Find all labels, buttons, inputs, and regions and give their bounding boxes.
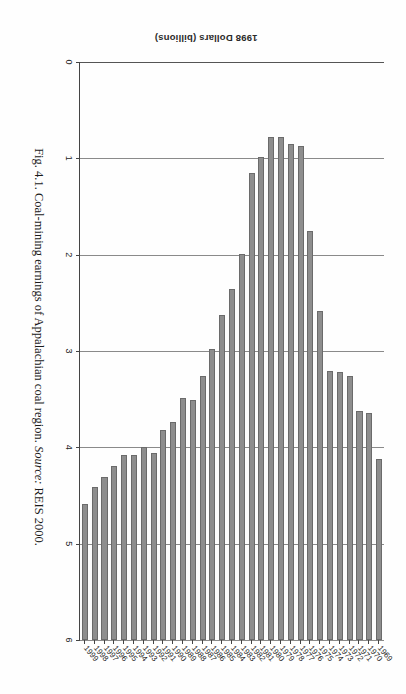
category-tick-1995 [123, 640, 124, 644]
bar-1974 [327, 371, 333, 640]
bar-1979 [278, 137, 284, 640]
bar-1998 [92, 487, 98, 640]
bar-1976 [307, 231, 313, 640]
value-tick-4 [76, 447, 80, 448]
category-tick-1997 [104, 640, 105, 644]
bar-1984 [229, 289, 235, 640]
category-tick-1972 [349, 640, 350, 644]
bar-row [141, 62, 147, 640]
value-tick-1 [76, 158, 80, 159]
bar-row [111, 62, 117, 640]
value-tick-label-6: 6 [64, 628, 74, 652]
value-tick-label-3: 3 [64, 339, 74, 363]
bar-row [366, 62, 372, 640]
category-tick-1983 [241, 640, 242, 644]
category-tick-1991 [162, 640, 163, 644]
bar-row [151, 62, 157, 640]
value-axis-title: 1998 Dollars (billions) [50, 30, 362, 46]
figure-caption: Fig. 4.1. Coal-mining earnings of Appala… [31, 0, 46, 694]
bar-1983 [239, 254, 245, 640]
bar-1973 [337, 372, 343, 640]
bar-row [376, 62, 382, 640]
value-tick-3 [76, 351, 80, 352]
bar-row [337, 62, 343, 640]
bar-row [219, 62, 225, 640]
bar-row [101, 62, 107, 640]
category-tick-1992 [153, 640, 154, 644]
value-tick-label-1: 1 [64, 146, 74, 170]
category-tick-1981 [260, 640, 261, 644]
bar-1981 [258, 157, 264, 640]
category-tick-1971 [358, 640, 359, 644]
category-tick-1975 [319, 640, 320, 644]
category-tick-1969 [378, 640, 379, 644]
scanned-page: 1998 Dollars (billions) 0123456 19691970… [0, 0, 406, 694]
bar-1990 [170, 422, 176, 640]
value-tick-label-4: 4 [64, 435, 74, 459]
category-tick-1987 [202, 640, 203, 644]
category-tick-1970 [368, 640, 369, 644]
category-tick-1993 [143, 640, 144, 644]
bar-1992 [151, 453, 157, 640]
bar-row [347, 62, 353, 640]
category-tick-1979 [280, 640, 281, 644]
bar-1977 [298, 146, 304, 640]
category-tick-1996 [113, 640, 114, 644]
figure: 1998 Dollars (billions) 0123456 19691970… [0, 0, 406, 694]
bar-row [317, 62, 323, 640]
bar-1991 [160, 430, 166, 640]
bar-row [327, 62, 333, 640]
bar-row [170, 62, 176, 640]
bar-1985 [219, 315, 225, 640]
bar-row [356, 62, 362, 640]
bar-1969 [376, 459, 382, 640]
category-tick-1982 [251, 640, 252, 644]
bar-1999 [82, 504, 88, 640]
bar-1994 [131, 455, 137, 640]
bar-1970 [366, 413, 372, 640]
category-tick-1988 [192, 640, 193, 644]
bar-1975 [317, 311, 323, 640]
value-tick-label-0: 0 [64, 50, 74, 74]
category-tick-1989 [182, 640, 183, 644]
caption-text: Fig. 4.1. Coal-mining earnings of Appala… [32, 148, 46, 443]
bar-row [190, 62, 196, 640]
bar-row [278, 62, 284, 640]
value-tick-label-5: 5 [64, 532, 74, 556]
bar-1987 [200, 376, 206, 640]
bar-1986 [209, 349, 215, 640]
bar-row [298, 62, 304, 640]
category-tick-1977 [300, 640, 301, 644]
category-tick-1978 [290, 640, 291, 644]
category-tick-1976 [309, 640, 310, 644]
bar-row [288, 62, 294, 640]
category-tick-1980 [270, 640, 271, 644]
bar-1993 [141, 447, 147, 640]
bar-1982 [249, 173, 255, 640]
bar-1995 [121, 455, 127, 640]
category-tick-1984 [231, 640, 232, 644]
bar-1980 [268, 137, 274, 640]
category-tick-1985 [221, 640, 222, 644]
category-tick-1990 [172, 640, 173, 644]
bar-1972 [347, 376, 353, 640]
value-tick-2 [76, 255, 80, 256]
value-axis: 0123456 [56, 62, 80, 640]
bar-1997 [101, 477, 107, 640]
bar-row [82, 62, 88, 640]
bar-row [307, 62, 313, 640]
category-tick-1974 [329, 640, 330, 644]
bar-row [229, 62, 235, 640]
bar-row [268, 62, 274, 640]
bar-row [160, 62, 166, 640]
bar-1989 [180, 398, 186, 640]
caption-source-value: REIS 2000. [32, 488, 46, 546]
bar-series [80, 62, 384, 640]
bar-1988 [190, 400, 196, 640]
chart-plot-area: 1998 Dollars (billions) 0123456 19691970… [72, 24, 384, 640]
bar-row [258, 62, 264, 640]
category-axis: 1969197019711972197319741975197619771978… [80, 640, 384, 694]
bar-row [209, 62, 215, 640]
bar-row [121, 62, 127, 640]
bar-row [131, 62, 137, 640]
